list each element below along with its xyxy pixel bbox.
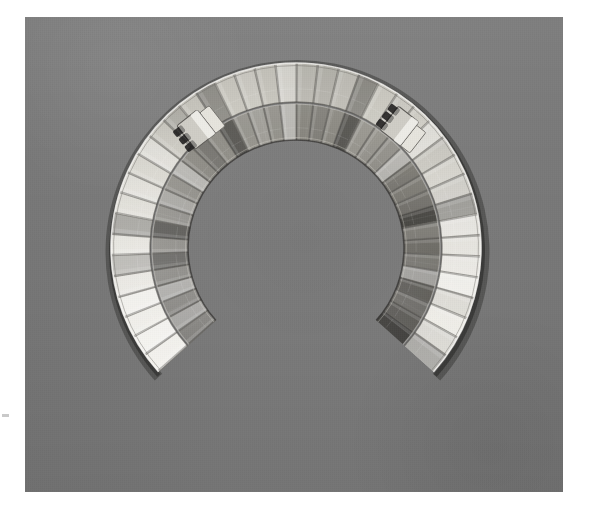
page-canvas: Metal Collar Necklace — Photograph: [0, 0, 595, 519]
necklace-artwork: [25, 17, 563, 492]
margin-registration-tick: [2, 414, 9, 417]
museum-object-photograph: [25, 17, 563, 492]
page-title: Metal Collar Necklace — Photograph: [0, 0, 1, 1]
